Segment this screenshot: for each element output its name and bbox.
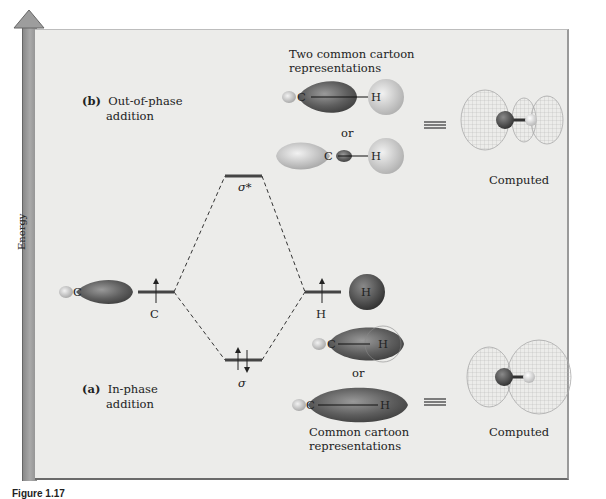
section-a-computed: Computed [489,425,549,439]
hydrogen-level-label: H [316,307,326,321]
atom-c: C [324,149,333,163]
atom-c: C [73,285,82,299]
atom-c: C [297,90,306,104]
carbon-orbital [59,280,133,304]
atom-c: C [327,337,336,351]
section-b-computed: Computed [489,173,549,187]
section-a-title: (a) In-phase [82,382,158,396]
section-a-tag: (a) [82,382,100,396]
section-a-cartoon-heading-2: representations [309,439,401,453]
section-a-title-line2: addition [106,397,154,411]
atom-h: H [361,285,371,299]
section-b-cartoon-heading-2: representations [289,61,381,75]
section-b-title-line2: addition [106,109,154,123]
atom-h: H [378,337,388,351]
section-a-or: or [352,366,364,380]
sigma-label: σ [238,376,246,390]
equivalence-icon [424,122,446,405]
computed-bonding-orbital [467,340,571,414]
bonding-cartoon-1 [312,326,404,362]
section-b-tag: (b) [82,94,101,108]
section-b-title-line1: Out-of-phase [108,94,182,108]
carbon-level-label: C [150,307,159,321]
section-b-or: or [341,126,353,140]
computed-antibonding-orbital [461,90,563,150]
atom-h: H [371,149,381,163]
atom-h: H [371,90,381,104]
section-a-title-line1: In-phase [108,382,158,396]
antibonding-cartoon-2 [276,138,404,174]
section-b-cartoon-heading-1: Two common cartoon [289,47,415,61]
figure-caption: Figure 1.17 [12,488,65,499]
atom-c: C [306,398,315,412]
section-b-title: (b) Out-of-phase [82,94,183,108]
sigma-star-label: σ* [238,180,252,194]
section-a-cartoon-heading-1: Common cartoon [309,425,409,439]
atom-h: H [380,398,390,412]
